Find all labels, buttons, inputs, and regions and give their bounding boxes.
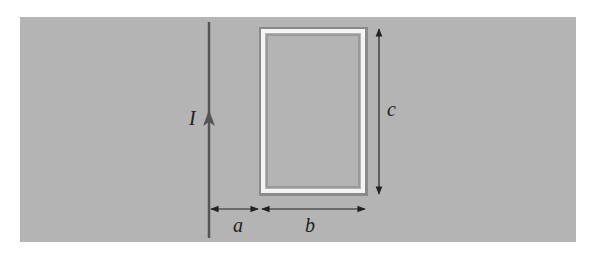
label-c: c — [387, 98, 396, 120]
background-panel — [20, 17, 576, 242]
wire-loop-diagram: I a b c — [0, 0, 594, 255]
label-a: a — [233, 214, 243, 236]
label-current: I — [188, 107, 197, 129]
label-b: b — [305, 214, 315, 236]
